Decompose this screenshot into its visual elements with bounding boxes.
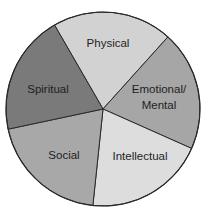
- label-spiritual: Spiritual: [27, 83, 69, 95]
- label-emotional-line1: Emotional/: [132, 83, 187, 95]
- wellness-pie-chart: Physical Emotional/ Mental Intellectual …: [0, 0, 208, 221]
- label-intellectual: Intellectual: [113, 150, 168, 162]
- label-social: Social: [48, 149, 79, 161]
- label-physical: Physical: [87, 37, 130, 49]
- label-emotional-line2: Mental: [142, 99, 177, 111]
